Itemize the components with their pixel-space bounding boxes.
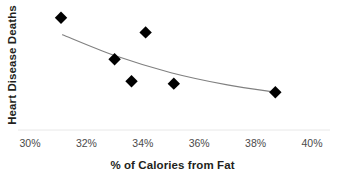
data-point-marker	[269, 86, 281, 98]
data-point-marker	[125, 75, 137, 87]
y-axis-title-text: Heart Disease Deaths	[7, 5, 19, 125]
x-axis-tick-label: 36%	[189, 138, 210, 149]
data-point-group	[55, 12, 282, 99]
x-axis-tick-label: 34%	[132, 138, 153, 149]
x-axis-title: % of Calories from Fat	[0, 160, 345, 172]
data-point-marker	[168, 77, 180, 89]
data-point-marker	[55, 12, 67, 24]
y-axis-title: Heart Disease Deaths	[0, 0, 26, 130]
data-point-marker	[108, 53, 120, 65]
x-axis-tick-label: 32%	[76, 138, 97, 149]
x-axis-tick-label: 38%	[245, 138, 266, 149]
x-axis-tick-label: 40%	[301, 138, 322, 149]
x-axis-tick-label: 30%	[19, 138, 40, 149]
chart-plot-area	[0, 0, 345, 185]
chart-container: Heart Disease Deaths % of Calories from …	[0, 0, 345, 185]
data-point-marker	[139, 26, 151, 38]
